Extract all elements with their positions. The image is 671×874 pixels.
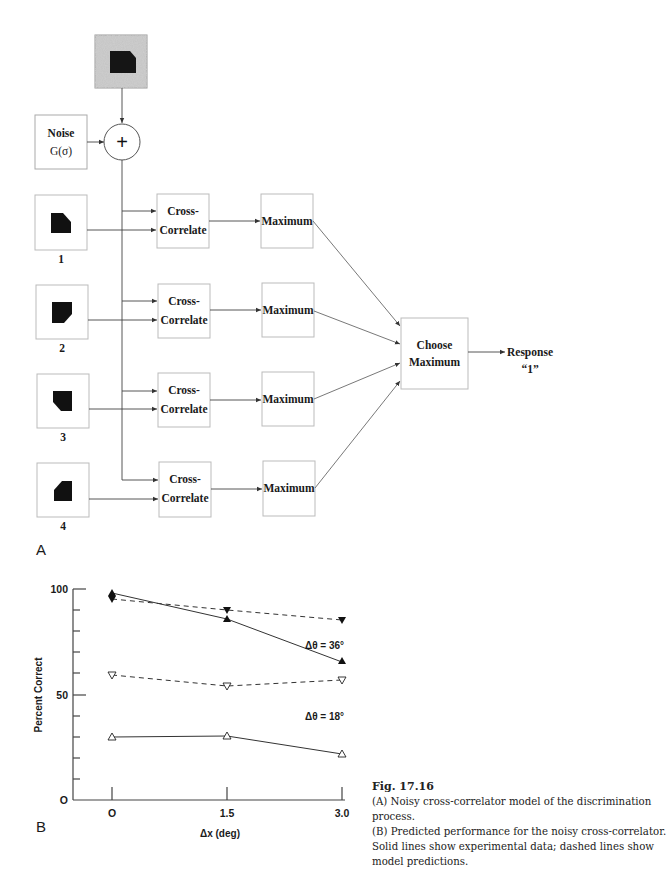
annotation-delta-theta-36: Δθ = 36° bbox=[305, 640, 344, 651]
choose-maximum-label: Maximum bbox=[409, 356, 461, 368]
template-label-4: 4 bbox=[60, 520, 66, 532]
y-tick-label-0: O bbox=[60, 794, 68, 806]
x-ticks bbox=[112, 787, 342, 800]
figure-number: Fig. 17.16 bbox=[372, 779, 671, 794]
noisy-stimulus-image bbox=[95, 35, 147, 88]
maximum-label: Maximum bbox=[263, 482, 315, 494]
plus-icon: + bbox=[116, 131, 128, 153]
noise-label: Noise bbox=[48, 127, 75, 139]
panel-b-chart: 100 50 O O 1.5 3.0 Δx (deg) Percent Corr… bbox=[33, 583, 349, 839]
cross-correlate-box-3 bbox=[158, 373, 210, 427]
x-tick-label-3-0: 3.0 bbox=[335, 807, 350, 819]
panel-a-diagram: Noise G(σ) + 1 Cross- Correlate Maximum bbox=[35, 35, 553, 558]
cross-correlate-label: Correlate bbox=[159, 224, 206, 236]
template-label-3: 3 bbox=[60, 431, 66, 443]
annotation-delta-theta-18: Δθ = 18° bbox=[305, 711, 344, 722]
maximum-label: Maximum bbox=[261, 215, 313, 227]
figure-canvas: Noise G(σ) + 1 Cross- Correlate Maximum bbox=[0, 0, 671, 874]
y-ticks bbox=[73, 589, 86, 779]
cross-correlate-box-2 bbox=[158, 284, 210, 338]
choose-label: Choose bbox=[417, 339, 453, 351]
figure-caption: Fig. 17.16 (A) Noisy cross-correlator mo… bbox=[372, 779, 671, 869]
channel-row-1: 1 Cross- Correlate Maximum bbox=[35, 194, 400, 326]
open-triangle-down-markers bbox=[108, 672, 346, 690]
panel-b-label: B bbox=[36, 818, 46, 835]
cross-correlate-label: Correlate bbox=[161, 492, 208, 504]
x-tick-label-1-5: 1.5 bbox=[220, 807, 235, 819]
response-label: Response bbox=[507, 346, 553, 359]
noise-sigma-label: G(σ) bbox=[50, 145, 72, 158]
cross-correlate-label: Correlate bbox=[160, 314, 207, 326]
caption-panel-a: (A) Noisy cross-correlator model of the … bbox=[372, 794, 671, 824]
y-tick-label-100: 100 bbox=[50, 583, 68, 595]
maximum-label: Maximum bbox=[262, 393, 314, 405]
channel-row-2: 2 Cross- Correlate Maximum bbox=[36, 283, 400, 354]
noise-box: Noise G(σ) bbox=[35, 115, 87, 169]
response-value: “1” bbox=[521, 363, 539, 375]
y-axis-label: Percent Correct bbox=[33, 657, 44, 733]
series-36-experimental-line bbox=[112, 593, 342, 662]
template-label-1: 1 bbox=[58, 253, 64, 265]
cross-correlate-label: Cross- bbox=[167, 205, 199, 217]
cross-correlate-label: Cross- bbox=[168, 384, 200, 396]
cross-correlate-box-1 bbox=[157, 194, 209, 248]
maximum-label: Maximum bbox=[262, 304, 314, 316]
channel-row-4: 4 Cross- Correlate Maximum bbox=[37, 381, 400, 532]
open-triangle-up-markers bbox=[108, 732, 346, 757]
caption-panel-b: (B) Predicted performance for the noisy … bbox=[372, 824, 671, 869]
choose-maximum-box: Choose Maximum bbox=[401, 318, 468, 389]
y-tick-label-50: 50 bbox=[56, 689, 68, 701]
adder-node: + bbox=[104, 124, 140, 160]
x-tick-label-0: O bbox=[108, 807, 116, 819]
cross-correlate-label: Correlate bbox=[160, 403, 207, 415]
panel-a-label: A bbox=[36, 541, 46, 558]
channel-row-3: 3 Cross- Correlate Maximum bbox=[37, 363, 400, 443]
cross-correlate-label: Cross- bbox=[169, 473, 201, 485]
cross-correlate-label: Cross- bbox=[168, 295, 200, 307]
template-label-2: 2 bbox=[59, 342, 65, 354]
cross-correlate-box-4 bbox=[159, 462, 211, 517]
x-axis-label: Δx (deg) bbox=[200, 828, 240, 839]
